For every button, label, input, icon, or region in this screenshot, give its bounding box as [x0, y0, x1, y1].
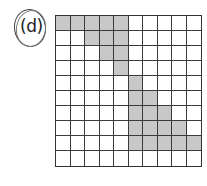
- grid-cell: [187, 121, 202, 136]
- grid-cell-shaded: [143, 121, 158, 136]
- grid-cell: [71, 151, 86, 166]
- grid-cell-shaded: [172, 136, 187, 151]
- grid-cell: [71, 121, 86, 136]
- grid-cell: [187, 46, 202, 61]
- grid-cell: [158, 31, 173, 46]
- label-text: (d): [20, 16, 43, 36]
- grid-cell: [187, 106, 202, 121]
- grid-cell: [129, 16, 144, 31]
- grid-cell-shaded: [114, 46, 129, 61]
- grid-cell-shaded: [143, 91, 158, 106]
- grid-cell-shaded: [158, 121, 173, 136]
- grid-cell: [158, 16, 173, 31]
- grid-cell: [100, 136, 115, 151]
- grid-cell: [114, 151, 129, 166]
- hundred-grid: [55, 15, 202, 167]
- grid-cell: [114, 91, 129, 106]
- grid-cell: [172, 61, 187, 76]
- grid-cell: [187, 16, 202, 31]
- grid-cell: [56, 31, 71, 46]
- grid-cell: [56, 121, 71, 136]
- grid-cell: [100, 76, 115, 91]
- grid-cell: [85, 61, 100, 76]
- grid-cell: [114, 136, 129, 151]
- grid-cell: [85, 106, 100, 121]
- grid-cell: [143, 76, 158, 91]
- grid-cell: [71, 76, 86, 91]
- grid-cell: [71, 91, 86, 106]
- grid-cell: [56, 106, 71, 121]
- grid-cell: [129, 46, 144, 61]
- grid-cell-shaded: [56, 16, 71, 31]
- grid-cell: [56, 46, 71, 61]
- grid-cell: [129, 31, 144, 46]
- grid-cell-shaded: [143, 106, 158, 121]
- grid-cell: [56, 61, 71, 76]
- grid-cell: [143, 61, 158, 76]
- grid-cell-shaded: [100, 46, 115, 61]
- grid-cell-shaded: [158, 106, 173, 121]
- grid-cell: [114, 76, 129, 91]
- grid-cell-shaded: [143, 136, 158, 151]
- grid-cell-shaded: [187, 136, 202, 151]
- grid-cell: [85, 76, 100, 91]
- grid-cell: [71, 106, 86, 121]
- grid-cell: [143, 16, 158, 31]
- grid-cell: [114, 121, 129, 136]
- grid-cell: [56, 136, 71, 151]
- grid-cell-shaded: [172, 121, 187, 136]
- grid-cell: [85, 121, 100, 136]
- grid-cell: [56, 76, 71, 91]
- grid-cell-shaded: [129, 91, 144, 106]
- grid-cell: [172, 106, 187, 121]
- grid-cell-shaded: [85, 16, 100, 31]
- grid-cell: [100, 151, 115, 166]
- grid-cell: [187, 31, 202, 46]
- figure-label: (d): [14, 9, 46, 47]
- grid-cell: [158, 46, 173, 61]
- grid-cell: [158, 76, 173, 91]
- grid-cell: [172, 76, 187, 91]
- grid-cell: [187, 61, 202, 76]
- grid-cell: [114, 106, 129, 121]
- grid-cell: [172, 91, 187, 106]
- grid-cell-shaded: [129, 121, 144, 136]
- grid-cell: [158, 151, 173, 166]
- grid-cell: [100, 121, 115, 136]
- grid-cell-shaded: [71, 16, 86, 31]
- grid-cell: [100, 91, 115, 106]
- grid-cell: [56, 91, 71, 106]
- grid-cell: [187, 91, 202, 106]
- grid-cell: [187, 151, 202, 166]
- grid-cell: [172, 151, 187, 166]
- grid-cell-shaded: [129, 76, 144, 91]
- grid-cell-shaded: [114, 31, 129, 46]
- grid-cell: [71, 61, 86, 76]
- grid-cell-shaded: [158, 136, 173, 151]
- grid-cell: [85, 151, 100, 166]
- grid-cell-shaded: [100, 31, 115, 46]
- grid-cell: [85, 46, 100, 61]
- grid-cell: [71, 31, 86, 46]
- grid-cell: [100, 61, 115, 76]
- grid-cell: [172, 31, 187, 46]
- grid-cell: [158, 91, 173, 106]
- grid-cell: [85, 136, 100, 151]
- grid-cell: [129, 61, 144, 76]
- grid-cell: [100, 106, 115, 121]
- grid-cell-shaded: [85, 31, 100, 46]
- grid-cell: [143, 151, 158, 166]
- grid-cell-shaded: [129, 136, 144, 151]
- grid-cell-shaded: [129, 106, 144, 121]
- grid-cell: [85, 91, 100, 106]
- grid-cell: [143, 46, 158, 61]
- grid-cell: [158, 61, 173, 76]
- grid-cell: [187, 76, 202, 91]
- grid-cell-shaded: [100, 16, 115, 31]
- grid-cell: [143, 31, 158, 46]
- grid-cell: [56, 151, 71, 166]
- grid-cell: [172, 46, 187, 61]
- grid-cell: [129, 151, 144, 166]
- grid-cell: [172, 16, 187, 31]
- grid-cell: [71, 136, 86, 151]
